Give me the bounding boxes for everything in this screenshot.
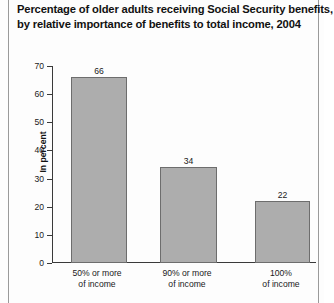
chart-title-line-1: Percentage of older adults receiving Soc… xyxy=(17,2,315,17)
category-label-2-line-2: of income xyxy=(133,279,241,290)
category-label-2: 90% or more of income xyxy=(133,268,241,290)
y-tick-mark-0 xyxy=(47,263,52,264)
y-tick-mark-50 xyxy=(47,122,52,123)
category-label-3-line-2: of income xyxy=(228,279,334,290)
y-tick-mark-40 xyxy=(47,150,52,151)
y-tick-label-0: 0 xyxy=(39,258,44,268)
y-tick-mark-60 xyxy=(47,94,52,95)
y-tick-label-40: 40 xyxy=(34,145,44,155)
category-label-3: 100% of income xyxy=(228,268,334,290)
bar-50-percent-or-more[interactable]: 66 xyxy=(71,77,127,263)
bar-value-label-2: 34 xyxy=(184,156,194,166)
category-label-2-line-1: 90% or more xyxy=(162,268,211,278)
y-tick-label-10: 10 xyxy=(34,230,44,240)
y-tick-label-30: 30 xyxy=(34,174,44,184)
y-tick-label-70: 70 xyxy=(34,61,44,71)
y-tick-label-20: 20 xyxy=(34,202,44,212)
plot-area: 0 10 20 30 40 50 60 70 xyxy=(52,66,316,263)
category-label-3-line-1: 100% xyxy=(270,268,292,278)
y-axis-line xyxy=(52,66,53,263)
y-tick-label-50: 50 xyxy=(34,117,44,127)
chart-title-line-2: by relative importance of benefits to to… xyxy=(17,17,315,32)
bar-value-label-1: 66 xyxy=(94,66,104,76)
page-rule-right xyxy=(318,0,319,303)
chart-title: Percentage of older adults receiving Soc… xyxy=(17,2,315,31)
y-tick-label-60: 60 xyxy=(34,89,44,99)
bar-value-label-3: 22 xyxy=(278,190,288,200)
category-label-1-line-1: 50% or more xyxy=(72,268,121,278)
y-tick-mark-20 xyxy=(47,207,52,208)
page-rule-left xyxy=(8,0,9,303)
y-tick-mark-10 xyxy=(47,235,52,236)
bar-100-percent[interactable]: 22 xyxy=(255,201,310,263)
bar-90-percent-or-more[interactable]: 34 xyxy=(160,167,217,263)
y-tick-mark-70 xyxy=(47,66,52,67)
y-tick-mark-30 xyxy=(47,179,52,180)
